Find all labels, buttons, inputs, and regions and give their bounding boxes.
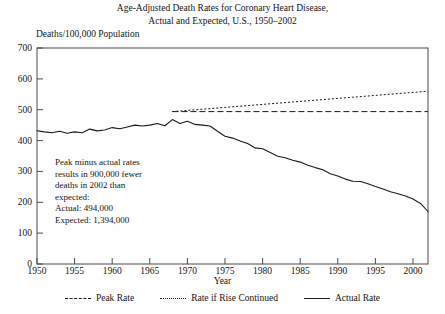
x-tick-label-1985: 1985 [280,266,320,276]
annotation-line-5: Actual: 494,000 [55,203,142,215]
dotted-line-icon [160,295,186,302]
x-tick-label-1965: 1965 [130,266,170,276]
solid-line-icon [304,295,330,302]
legend-label-rate-if-rise-continued: Rate if Rise Continued [191,293,278,303]
annotation-line-4: expected: [55,192,142,204]
legend-item-actual-rate: Actual Rate [304,293,380,303]
x-tick-label-1980: 1980 [243,266,283,276]
y-tick-label-400: 400 [2,136,32,146]
annotation-line-2: results in 900,000 fewer [55,169,142,181]
annotation-line-1: Peak minus actual rates [55,157,142,169]
y-tick-label-500: 500 [2,105,32,115]
x-tick-label-1975: 1975 [205,266,245,276]
legend-item-peak-rate: Peak Rate [65,293,134,303]
x-tick-label-1970: 1970 [167,266,207,276]
x-axis-label: Year [0,276,445,286]
x-tick-label-1950: 1950 [17,266,57,276]
chart-legend: Peak Rate Rate if Rise Continued Actual … [0,293,445,303]
legend-item-rate-if-rise-continued: Rate if Rise Continued [160,293,278,303]
annotation-line-6: Expected: 1,394,000 [55,215,142,227]
x-tick-label-1995: 1995 [355,266,395,276]
annotation-line-3: deaths in 2002 than [55,180,142,192]
legend-label-actual-rate: Actual Rate [335,293,380,303]
x-tick-label-1955: 1955 [55,266,95,276]
y-tick-label-600: 600 [2,74,32,84]
x-tick-label-1960: 1960 [92,266,132,276]
legend-label-peak-rate: Peak Rate [96,293,134,303]
plot-frame [37,48,428,264]
chart-figure: Age-Adjusted Death Rates for Coronary He… [0,0,445,314]
dashed-line-icon [65,295,91,302]
y-tick-label-300: 300 [2,166,32,176]
y-tick-label-700: 700 [2,43,32,53]
x-tick-label-2000: 2000 [393,266,433,276]
x-tick-label-1990: 1990 [318,266,358,276]
chart-annotation: Peak minus actual rates results in 900,0… [55,157,142,227]
y-tick-label-200: 200 [2,197,32,207]
y-tick-label-100: 100 [2,228,32,238]
